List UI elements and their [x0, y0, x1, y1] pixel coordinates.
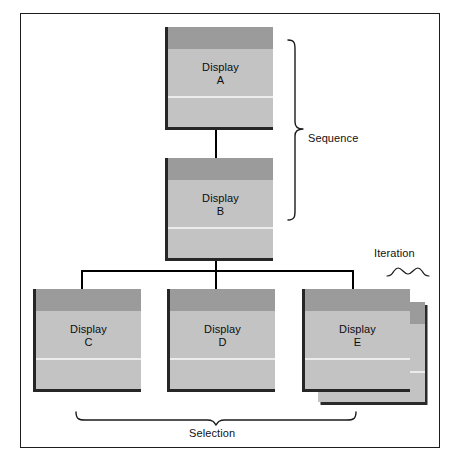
sequence-label: Sequence — [308, 132, 358, 144]
connector-bus-to-e — [352, 270, 354, 289]
node-display-d[interactable]: Display D — [170, 289, 275, 389]
card-header-strip-b — [168, 158, 273, 180]
card-header-strip-e — [305, 289, 410, 311]
node-display-c[interactable]: Display C — [36, 289, 141, 389]
node-display-b[interactable]: Display B — [168, 158, 273, 258]
card-label-a: Display A — [168, 61, 273, 87]
card-body-d: Display D — [170, 289, 275, 389]
card-header-strip-d — [170, 289, 275, 311]
card-label-a-line2: A — [168, 74, 273, 87]
diagram-canvas: Display A Display B Display C — [0, 0, 461, 463]
card-label-c-line2: C — [36, 336, 141, 349]
connector-bus — [81, 270, 354, 272]
card-header-strip-a — [168, 27, 273, 49]
card-divider-a — [168, 96, 273, 98]
card-label-b-line2: B — [168, 205, 273, 218]
connector-bus-to-d — [215, 270, 217, 289]
card-body-c: Display C — [36, 289, 141, 389]
card-label-b: Display B — [168, 192, 273, 218]
selection-brace-icon — [74, 410, 358, 426]
connector-bus-to-c — [81, 270, 83, 289]
card-divider-c — [36, 358, 141, 360]
iteration-brace-icon — [386, 266, 430, 278]
card-divider-e — [305, 358, 410, 360]
card-divider-b — [168, 227, 273, 229]
card-label-c-line1: Display — [70, 323, 107, 335]
card-label-d-line2: D — [170, 336, 275, 349]
connector-a-to-b — [215, 130, 217, 159]
card-label-a-line1: Display — [202, 61, 239, 73]
iteration-label: Iteration — [374, 247, 415, 259]
selection-label: Selection — [189, 427, 235, 439]
card-label-b-line1: Display — [202, 192, 239, 204]
card-body-b: Display B — [168, 158, 273, 258]
node-display-e[interactable]: Display E — [305, 289, 410, 389]
card-header-strip-c — [36, 289, 141, 311]
card-label-e-line2: E — [305, 336, 410, 349]
node-display-a[interactable]: Display A — [168, 27, 273, 127]
card-label-e: Display E — [305, 323, 410, 349]
card-label-d-line1: Display — [204, 323, 241, 335]
card-body-e: Display E — [305, 289, 410, 389]
card-divider-d — [170, 358, 275, 360]
card-body-a: Display A — [168, 27, 273, 127]
card-label-d: Display D — [170, 323, 275, 349]
sequence-brace-icon — [286, 38, 308, 224]
card-label-e-line1: Display — [339, 323, 376, 335]
card-label-c: Display C — [36, 323, 141, 349]
